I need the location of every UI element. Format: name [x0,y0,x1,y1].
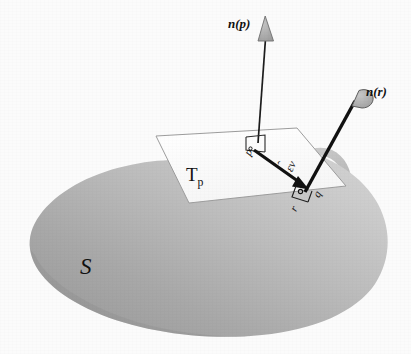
surface-label: S [80,255,92,278]
normal-vector-p [258,16,274,143]
normal-vector-r-label: n(r) [366,85,387,98]
tangent-plane-label-base: T [186,164,198,185]
figure-canvas [0,0,411,354]
tangent-plane-label-subscript: p [198,176,204,189]
tangent-plane-label: Tp [186,165,204,189]
normal-vector-p-label: n(p) [228,17,250,30]
tangent-plane-figure: n(p) n(r) Tp S p q r εv [0,0,411,354]
